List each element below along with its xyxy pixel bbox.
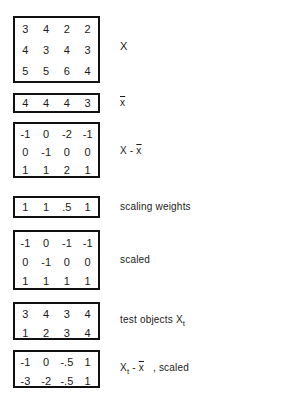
cell: 1 <box>78 165 98 176</box>
matrix-test-scaled: -10-.51 -3-2-.51 <box>13 350 100 388</box>
label-part: - <box>129 362 139 373</box>
cell: 3 <box>78 98 98 109</box>
cell: 3 <box>15 24 35 35</box>
cell: 1 <box>36 276 56 287</box>
cell: 3 <box>57 309 77 320</box>
cell: 4 <box>36 98 56 109</box>
label-x: X <box>120 40 128 52</box>
cell: 1 <box>78 357 98 368</box>
cell: -1 <box>57 238 77 249</box>
cell: 1 <box>36 202 56 213</box>
cell: 1 <box>57 276 77 287</box>
cell: -1 <box>36 257 56 268</box>
cell: 0 <box>36 129 56 140</box>
label-test-scaled: Xt - x , scaled <box>120 362 189 376</box>
cell: 1 <box>78 376 98 387</box>
cell: -1 <box>15 238 35 249</box>
label-part: test objects X <box>120 314 183 325</box>
cell: 2 <box>57 165 77 176</box>
cell: 1 <box>78 276 98 287</box>
cell: 3 <box>78 45 98 56</box>
cell: 5 <box>15 66 35 77</box>
label-part: , scaled <box>144 362 189 373</box>
label-sub: t <box>183 319 185 328</box>
label-part: X - <box>120 145 136 156</box>
matrix-x: 3422 4343 5564 <box>13 16 100 83</box>
cell: 4 <box>36 24 56 35</box>
cell: 4 <box>78 328 98 339</box>
cell: 0 <box>15 147 35 158</box>
cell: -.5 <box>57 357 77 368</box>
label-part: x <box>136 145 141 156</box>
cell: 0 <box>15 257 35 268</box>
matrix-weights: 11.51 <box>13 196 100 218</box>
cell: 2 <box>36 328 56 339</box>
cell: .5 <box>57 202 77 213</box>
matrix-test-objects: 3434 1234 <box>13 302 100 340</box>
label-test-objects: test objects Xt <box>120 314 185 328</box>
cell: 0 <box>57 147 77 158</box>
matrix-centered: -10-2-1 0-100 1121 <box>13 122 100 178</box>
cell: 4 <box>15 98 35 109</box>
cell: 3 <box>15 309 35 320</box>
cell: 2 <box>78 24 98 35</box>
cell: -3 <box>15 376 35 387</box>
label-mean: x <box>120 97 125 108</box>
label-scaled: scaled <box>120 254 150 265</box>
cell: 0 <box>36 238 56 249</box>
label-part: X <box>120 362 127 373</box>
label-centered: X - x <box>120 145 142 156</box>
cell: 3 <box>36 45 56 56</box>
cell: -1 <box>36 147 56 158</box>
cell: -1 <box>78 129 98 140</box>
cell: -.5 <box>57 376 77 387</box>
cell: 0 <box>78 147 98 158</box>
cell: 6 <box>57 66 77 77</box>
label-weights: scaling weights <box>120 201 191 212</box>
cell: 4 <box>78 309 98 320</box>
cell: 1 <box>78 202 98 213</box>
cell: 0 <box>57 257 77 268</box>
cell: 1 <box>15 276 35 287</box>
cell: 5 <box>36 66 56 77</box>
cell: 4 <box>78 66 98 77</box>
cell: 1 <box>15 165 35 176</box>
cell: 4 <box>36 309 56 320</box>
cell: 4 <box>57 98 77 109</box>
cell: 1 <box>15 202 35 213</box>
cell: 4 <box>57 45 77 56</box>
cell: -2 <box>57 129 77 140</box>
cell: -1 <box>78 238 98 249</box>
cell: -2 <box>36 376 56 387</box>
matrix-scaled: -10-1-1 0-100 1111 <box>13 230 100 290</box>
cell: -1 <box>15 129 35 140</box>
cell: 1 <box>36 165 56 176</box>
cell: -1 <box>15 357 35 368</box>
cell: 2 <box>57 24 77 35</box>
matrix-mean: 4443 <box>13 93 100 113</box>
cell: 0 <box>36 357 56 368</box>
cell: 3 <box>57 328 77 339</box>
cell: 4 <box>15 45 35 56</box>
cell: 1 <box>15 328 35 339</box>
cell: 0 <box>78 257 98 268</box>
